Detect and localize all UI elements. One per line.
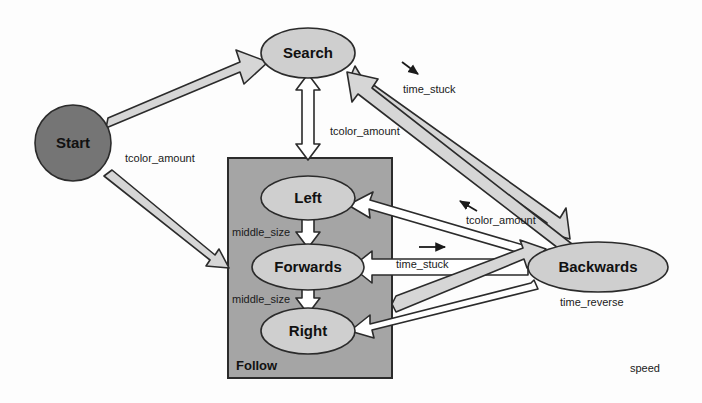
edge-label-speed: speed (630, 362, 660, 374)
edge-start-follow[interactable] (104, 170, 229, 268)
state-node-search-label: Search (283, 44, 333, 61)
state-diagram-canvas: Start Search Left Forwards Right Backwar… (0, 0, 702, 403)
marker-time-stuck-top-icon (402, 62, 418, 74)
edge-label-backwards-forwards: time_stuck (396, 258, 449, 270)
state-node-forwards-label: Forwards (274, 258, 342, 275)
edge-label-backwards-search: time_stuck (403, 83, 456, 95)
edge-label-backwards-right: time_reverse (560, 296, 624, 308)
state-node-right-label: Right (289, 322, 327, 339)
edge-label-forwards-right: middle_size (232, 293, 290, 305)
state-node-start-label: Start (56, 134, 90, 151)
state-diagram: Start Search Left Forwards Right Backwar… (0, 0, 702, 403)
edge-search-follow[interactable] (296, 74, 320, 160)
edge-label-start-search: tcolor_amount (125, 152, 195, 164)
edge-start-search[interactable] (106, 50, 268, 128)
marker-tcolor-amount-mid-icon (460, 201, 477, 211)
edge-label-left-forwards: middle_size (232, 226, 290, 238)
edge-label-search-follow: tcolor_amount (330, 125, 400, 137)
state-node-left-label: Left (294, 189, 322, 206)
composite-state-follow-label: Follow (236, 358, 278, 373)
state-node-backwards-label: Backwards (558, 258, 637, 275)
edge-label-search-backwards: tcolor_amount (466, 214, 536, 226)
